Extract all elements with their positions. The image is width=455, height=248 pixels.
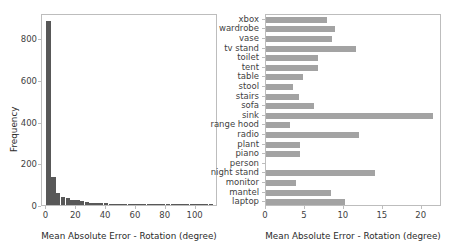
histogram-x-tick-label: 100: [180, 211, 210, 220]
horizontal-bar-x-tick-mark: [421, 206, 422, 209]
horizontal-bar-y-tick-mark: [262, 144, 265, 145]
histogram-x-tick-mark: [45, 206, 46, 209]
histogram-x-tick-mark: [105, 206, 106, 209]
histogram-bar: [209, 204, 213, 205]
horizontal-bar-item: [266, 26, 335, 32]
horizontal-bar-category-label: monitor: [226, 178, 259, 187]
histogram-x-axis-title: Mean Absolute Error - Rotation (degree): [41, 232, 217, 241]
horizontal-bar-item: [266, 132, 359, 138]
horizontal-bar-x-tick-mark: [265, 206, 266, 209]
horizontal-bar-y-tick-mark: [262, 48, 265, 49]
horizontal-bar-category-label: vase: [239, 34, 259, 43]
histogram-y-axis-title: Frequency: [10, 107, 19, 152]
histogram-y-tick-label: 400: [20, 119, 37, 128]
horizontal-bar-x-tick-label: 10: [328, 211, 358, 220]
horizontal-bar-item: [266, 113, 433, 119]
horizontal-bar-category-label: xbox: [239, 15, 259, 24]
histogram-y-tick-mark: [38, 206, 41, 207]
horizontal-bar-category-label: mantel: [229, 188, 259, 197]
horizontal-bar-category-label: stool: [238, 82, 259, 91]
histogram-y-tick-label: 0: [20, 202, 37, 211]
horizontal-bar-y-tick-mark: [262, 201, 265, 202]
horizontal-bar-category-label: laptop: [232, 197, 259, 206]
horizontal-bar-category-label: person: [230, 159, 259, 168]
horizontal-bar-y-tick-mark: [262, 76, 265, 77]
histogram-y-tick-mark: [38, 39, 41, 40]
horizontal-bar-item: [266, 103, 314, 109]
histogram-y-tick-mark: [38, 164, 41, 165]
histogram-axes: [41, 14, 217, 206]
horizontal-bar-y-tick-mark: [262, 57, 265, 58]
horizontal-bar-y-tick-mark: [262, 115, 265, 116]
horizontal-bar-category-label: piano: [235, 149, 259, 158]
horizontal-bar-y-tick-mark: [262, 86, 265, 87]
horizontal-bar-y-tick-mark: [262, 134, 265, 135]
horizontal-bar-y-tick-mark: [262, 19, 265, 20]
horizontal-bar-category-label: tv stand: [224, 44, 259, 53]
histogram-x-tick-mark: [195, 206, 196, 209]
horizontal-bar-item: [266, 74, 303, 80]
horizontal-bar-category-label: wardrobe: [219, 24, 259, 33]
horizontal-bar-y-tick-mark: [262, 96, 265, 97]
horizontal-bar-x-tick-label: 20: [406, 211, 436, 220]
horizontal-bar-item: [266, 17, 327, 23]
horizontal-bar-y-tick-mark: [262, 105, 265, 106]
horizontal-bar-x-tick-label: 5: [289, 211, 319, 220]
histogram-x-tick-mark: [165, 206, 166, 209]
horizontal-bar-y-tick-mark: [262, 192, 265, 193]
horizontal-bar-x-tick-label: 15: [367, 211, 397, 220]
horizontal-bar-x-tick-mark: [343, 206, 344, 209]
horizontal-bar-item: [266, 55, 318, 61]
horizontal-bar-item: [266, 46, 356, 52]
histogram-x-tick-label: 0: [30, 211, 60, 220]
horizontal-bar-y-tick-mark: [262, 28, 265, 29]
horizontal-bar-y-tick-mark: [262, 124, 265, 125]
horizontal-bar-item: [266, 180, 296, 186]
histogram-x-tick-mark: [135, 206, 136, 209]
histogram-y-tick-label: 600: [20, 77, 37, 86]
horizontal-bar-item: [266, 190, 331, 196]
horizontal-bar-axes: [265, 14, 441, 206]
horizontal-bar-y-tick-mark: [262, 67, 265, 68]
horizontal-bar-y-tick-mark: [262, 182, 265, 183]
horizontal-bar-category-label: table: [237, 72, 259, 81]
horizontal-bar-y-tick-mark: [262, 153, 265, 154]
horizontal-bar-item: [266, 151, 300, 157]
horizontal-bar-item: [266, 36, 332, 42]
horizontal-bar-item: [266, 84, 293, 90]
horizontal-bar-category-label: sofa: [241, 101, 259, 110]
horizontal-bar-category-label: night stand: [211, 168, 259, 177]
histogram-y-tick-mark: [38, 81, 41, 82]
histogram-x-tick-label: 60: [120, 211, 150, 220]
horizontal-bar-item: [266, 94, 299, 100]
horizontal-bar-category-label: stairs: [236, 92, 259, 101]
horizontal-bar-x-tick-mark: [304, 206, 305, 209]
horizontal-bar-item: [266, 199, 345, 205]
horizontal-bar-x-tick-mark: [382, 206, 383, 209]
horizontal-bar-category-label: sink: [242, 111, 259, 120]
horizontal-bar-category-label: range hood: [210, 120, 259, 129]
figure-canvas: 0200400600800 020406080100 Frequency Mea…: [0, 0, 455, 248]
horizontal-bar-category-label: plant: [237, 140, 259, 149]
category-label-column: xboxwardrobevasetv standtoilettenttables…: [228, 14, 262, 206]
histogram-x-tick-mark: [75, 206, 76, 209]
horizontal-bar-category-label: toilet: [237, 53, 259, 62]
histogram-x-tick-label: 80: [150, 211, 180, 220]
horizontal-bar-item: [266, 122, 290, 128]
histogram-x-tick-label: 40: [90, 211, 120, 220]
horizontal-bar-x-tick-label: 0: [250, 211, 280, 220]
histogram-x-tick-label: 20: [60, 211, 90, 220]
horizontal-bar-y-tick-mark: [262, 163, 265, 164]
horizontal-bar-item: [266, 142, 300, 148]
horizontal-bar-y-tick-mark: [262, 172, 265, 173]
horizontal-bar-category-label: tent: [242, 63, 259, 72]
horizontal-bar-item: [266, 170, 375, 176]
histogram-y-tick-label: 800: [20, 35, 37, 44]
horizontal-bar-y-tick-mark: [262, 38, 265, 39]
horizontal-bar-x-axis-title: Mean Absolute Error - Rotation (degree): [265, 232, 441, 241]
histogram-y-tick-label: 200: [20, 160, 37, 169]
histogram-y-tick-mark: [38, 123, 41, 124]
horizontal-bar-item: [266, 65, 318, 71]
horizontal-bar-category-label: radio: [237, 130, 259, 139]
